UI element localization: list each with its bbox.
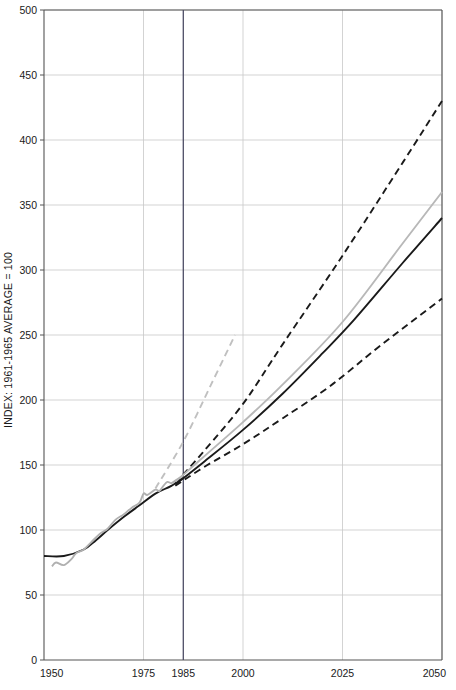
grid-lines — [44, 10, 442, 660]
series-projection-medium-black-solid — [175, 218, 442, 485]
y-tick-label: 300 — [19, 264, 37, 276]
y-tick-label: 200 — [19, 394, 37, 406]
chart-container: 050100150200250300350400450500 195019751… — [0, 0, 456, 690]
series-projection-high-dashed — [175, 101, 442, 483]
x-tick-label: 1975 — [132, 667, 156, 679]
index-projection-line-chart: 050100150200250300350400450500 195019751… — [0, 0, 456, 690]
y-tick-label: 150 — [19, 459, 37, 471]
y-tick-label: 350 — [19, 199, 37, 211]
y-tick-label: 450 — [19, 69, 37, 81]
series-historical-trend-black — [44, 478, 183, 556]
x-tick-label: 2025 — [331, 667, 355, 679]
x-tick-label: 1985 — [172, 667, 196, 679]
x-tick-label: 2050 — [423, 667, 447, 679]
x-axis-tick-labels: 195019751985200020252050 — [40, 667, 446, 679]
y-tick-label: 50 — [25, 589, 37, 601]
y-tick-label: 0 — [31, 654, 37, 666]
series-projection-low-dashed — [175, 299, 442, 486]
y-axis-title-text: INDEX: 1961-1965 AVERAGE = 100 — [2, 252, 14, 428]
y-tick-label: 100 — [19, 524, 37, 536]
y-tick-label: 400 — [19, 134, 37, 146]
x-tick-label: 1950 — [40, 667, 64, 679]
y-tick-label: 250 — [19, 329, 37, 341]
y-axis-tick-labels: 050100150200250300350400450500 — [19, 4, 37, 666]
y-tick-label: 500 — [19, 4, 37, 16]
x-tick-label: 2000 — [231, 667, 255, 679]
y-axis-title: INDEX: 1961-1965 AVERAGE = 100 — [2, 252, 14, 428]
